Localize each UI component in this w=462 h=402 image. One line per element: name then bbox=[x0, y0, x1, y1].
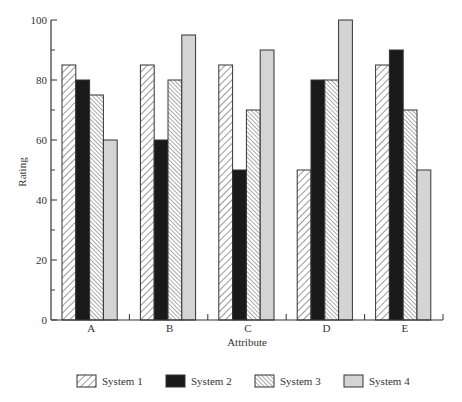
bar-A-system-1 bbox=[62, 65, 76, 320]
x-axis-label: Attribute bbox=[227, 336, 267, 348]
x-tick-label: C bbox=[244, 322, 251, 334]
bar-D-system-4 bbox=[339, 20, 353, 320]
bar-E-system-2 bbox=[389, 50, 403, 320]
bar-C-system-3 bbox=[246, 110, 260, 320]
bar-D-system-1 bbox=[297, 170, 311, 320]
y-tick-label: 20 bbox=[36, 254, 48, 266]
x-tick-label: E bbox=[401, 322, 408, 334]
bar-B-system-2 bbox=[154, 140, 168, 320]
legend-swatch-system-1 bbox=[77, 375, 96, 387]
legend: System 1System 2System 3System 4 bbox=[77, 375, 410, 387]
bar-E-system-1 bbox=[376, 65, 390, 320]
bar-D-system-3 bbox=[325, 80, 339, 320]
bar-A-system-4 bbox=[103, 140, 117, 320]
bar-D-system-2 bbox=[311, 80, 325, 320]
y-tick-label: 80 bbox=[36, 74, 48, 86]
x-tick-label: A bbox=[87, 322, 95, 334]
legend-swatch-system-4 bbox=[344, 375, 363, 387]
bars-group bbox=[62, 20, 431, 320]
legend-label-system-2: System 2 bbox=[191, 375, 232, 387]
bar-B-system-3 bbox=[168, 80, 182, 320]
legend-swatch-system-3 bbox=[255, 375, 274, 387]
bar-B-system-1 bbox=[140, 65, 154, 320]
bar-A-system-2 bbox=[76, 80, 90, 320]
bar-E-system-3 bbox=[403, 110, 417, 320]
x-tick-label: D bbox=[322, 322, 330, 334]
y-tick-label: 0 bbox=[42, 314, 48, 326]
y-tick-label: 100 bbox=[31, 14, 48, 26]
bar-E-system-4 bbox=[417, 170, 431, 320]
bar-A-system-3 bbox=[90, 95, 104, 320]
legend-label-system-3: System 3 bbox=[280, 375, 321, 387]
bar-C-system-4 bbox=[260, 50, 274, 320]
bar-C-system-1 bbox=[219, 65, 233, 320]
legend-swatch-system-2 bbox=[166, 375, 185, 387]
bar-chart: 020406080100ABCDE Rating Attribute Syste… bbox=[0, 0, 462, 402]
bar-B-system-4 bbox=[182, 35, 196, 320]
legend-label-system-4: System 4 bbox=[369, 375, 410, 387]
y-tick-label: 60 bbox=[36, 134, 48, 146]
y-tick-label: 40 bbox=[36, 194, 48, 206]
y-axis-label: Rating bbox=[16, 157, 28, 187]
legend-label-system-1: System 1 bbox=[102, 375, 143, 387]
x-tick-label: B bbox=[166, 322, 173, 334]
bar-C-system-2 bbox=[233, 170, 247, 320]
